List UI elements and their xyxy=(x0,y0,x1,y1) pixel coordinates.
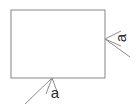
dimension-label-right: a xyxy=(112,33,129,42)
square-dimension-diagram: a a xyxy=(0,0,137,108)
leader-line-bottom xyxy=(25,78,52,104)
dimension-right: a xyxy=(105,31,130,57)
figure-root: a a xyxy=(0,0,137,108)
dimension-label-bottom: a xyxy=(51,84,60,101)
dimension-bottom: a xyxy=(25,78,60,104)
square-outline xyxy=(11,10,105,78)
